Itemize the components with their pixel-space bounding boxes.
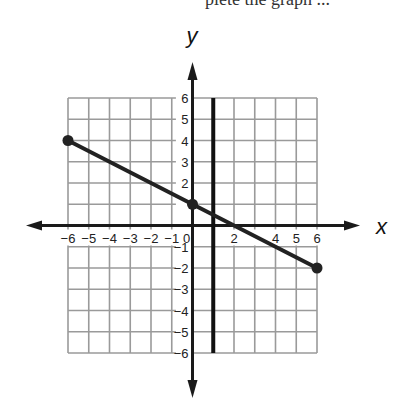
- x-tick-label: 5: [293, 231, 300, 246]
- y-axis-down-arrow-icon: [188, 380, 198, 398]
- y-tick-label: −2: [174, 261, 189, 276]
- x-tick-label: 6: [313, 231, 320, 246]
- x-tick-label: −5: [81, 231, 96, 246]
- y-tick-label: −4: [174, 304, 189, 319]
- x-tick-label: −6: [61, 231, 76, 246]
- x-tick-label: −3: [123, 231, 138, 246]
- coordinate-plane: −6−5−4−3−2−10245665432−1−2−3−4−5−6xy: [0, 0, 397, 401]
- y-axis-up-arrow-icon: [188, 62, 198, 80]
- y-tick-label: 6: [181, 91, 188, 106]
- y-tick-label: −5: [174, 325, 189, 340]
- y-tick-label: −6: [174, 346, 189, 361]
- y-tick-label: 4: [181, 134, 188, 149]
- x-tick-label: −4: [102, 231, 117, 246]
- point-marker: [187, 199, 198, 210]
- y-tick-label: −1: [174, 240, 189, 255]
- y-tick-label: 5: [181, 112, 188, 127]
- y-tick-label: 2: [181, 176, 188, 191]
- y-axis-label: y: [185, 23, 200, 48]
- y-tick-label: 3: [181, 155, 188, 170]
- x-axis-left-arrow-icon: [26, 221, 42, 231]
- x-tick-label: 2: [230, 231, 237, 246]
- point-marker: [312, 263, 323, 274]
- x-axis-right-arrow-icon: [344, 221, 360, 231]
- x-axis-label: x: [375, 214, 388, 239]
- point-marker: [63, 135, 74, 146]
- x-tick-label: −2: [144, 231, 159, 246]
- y-tick-label: −3: [174, 282, 189, 297]
